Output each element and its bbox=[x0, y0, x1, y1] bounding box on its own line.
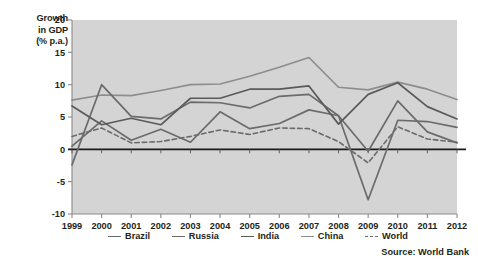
legend-swatch-world bbox=[365, 236, 378, 237]
y-tick-label: 10 bbox=[55, 80, 65, 90]
chart-legend: Brazil Russia India China World bbox=[108, 228, 408, 244]
legend-label-brazil: Brazil bbox=[125, 231, 150, 241]
y-tick-label: 15 bbox=[55, 48, 65, 58]
y-tick-label: -10 bbox=[52, 209, 65, 219]
legend-label-russia: Russia bbox=[189, 231, 219, 241]
legend-swatch-brazil bbox=[108, 236, 121, 237]
legend-swatch-india bbox=[241, 236, 254, 237]
legend-label-india: India bbox=[258, 231, 279, 241]
legend-swatch-russia bbox=[172, 236, 185, 237]
y-tick-label: -5 bbox=[57, 177, 65, 187]
x-tick-label: 1999 bbox=[62, 221, 82, 231]
legend-item-brazil[interactable]: Brazil bbox=[108, 231, 150, 241]
x-tick-label: 2011 bbox=[417, 221, 437, 231]
y-tick-label: 5 bbox=[60, 112, 65, 122]
gdp-growth-figure: Growth in GDP (% p.a.) 20151050-5-10 199… bbox=[0, 0, 478, 269]
legend-item-world[interactable]: World bbox=[365, 231, 408, 241]
y-tick-label: 20 bbox=[55, 15, 65, 25]
legend-item-india[interactable]: India bbox=[241, 231, 279, 241]
legend-label-china: China bbox=[318, 231, 344, 241]
legend-item-russia[interactable]: Russia bbox=[172, 231, 219, 241]
plot-background-layer bbox=[72, 20, 457, 214]
legend-swatch-china bbox=[301, 236, 314, 237]
y-tick-label: 0 bbox=[60, 145, 65, 155]
legend-item-china[interactable]: China bbox=[301, 231, 344, 241]
y-tick-label-layer: 20151050-5-10 bbox=[52, 15, 65, 219]
x-tick-label: 2012 bbox=[447, 221, 467, 231]
source-note: Source: World Bank bbox=[381, 247, 469, 257]
legend-label-world: World bbox=[382, 231, 408, 241]
